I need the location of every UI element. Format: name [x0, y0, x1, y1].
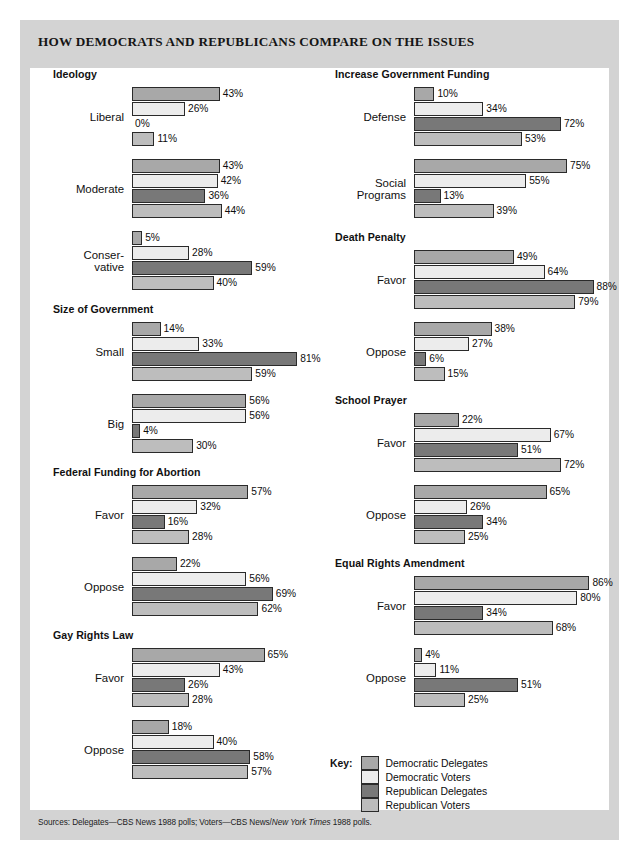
bar-dem-vot [414, 265, 545, 279]
source-publication: New York Times [272, 818, 331, 827]
bar-value-label: 39% [497, 206, 517, 216]
bar-value-label: 86% [592, 578, 612, 588]
issue-section: School PrayerFavor22%67%51%72%Oppose65%2… [330, 394, 620, 544]
bar-dem-del [132, 394, 246, 408]
bar-group-bars: 57%32%16%28% [132, 485, 338, 544]
bar-dem-del [414, 485, 547, 499]
bar-row: 4% [414, 648, 620, 662]
bar-dem-vot [132, 337, 199, 351]
bar-value-label: 11% [439, 665, 459, 675]
legend-swatch [361, 784, 379, 798]
issue-section: Death PenaltyFavor49%64%88%79%Oppose38%2… [330, 231, 620, 381]
bar-group-label: Big [48, 417, 124, 429]
chart-column-right: Increase Government FundingDefense10%34%… [330, 68, 620, 720]
bar-row: 79% [414, 295, 620, 309]
bar-value-label: 57% [251, 767, 271, 777]
bar-group-label: Favor [330, 273, 406, 285]
bar-value-label: 44% [225, 206, 245, 216]
bar-rep-del [414, 117, 561, 131]
bar-group: Big56%56%4%30% [48, 394, 338, 453]
bar-rep-del [132, 352, 297, 366]
bar-value-label: 43% [223, 89, 243, 99]
bar-group: Favor57%32%16%28% [48, 485, 338, 544]
bar-group-label: Oppose [48, 580, 124, 592]
bar-value-label: 64% [548, 267, 568, 277]
bar-dem-del [414, 87, 434, 101]
section-title: Death Penalty [335, 231, 620, 243]
bar-row: 40% [132, 276, 338, 290]
bar-rep-vot [414, 132, 522, 146]
bar-group-label: Liberal [48, 110, 124, 122]
bar-value-label: 56% [249, 411, 269, 421]
bar-rep-del [132, 424, 140, 438]
bar-row: 26% [132, 102, 338, 116]
issue-section: Size of GovernmentSmall14%33%81%59%Big56… [48, 303, 338, 453]
bar-group-label: Oppose [330, 508, 406, 520]
bar-row: 75% [414, 159, 620, 173]
bar-row: 80% [414, 591, 620, 605]
bar-group-bars: 86%80%34%68% [414, 576, 620, 635]
bar-value-label: 56% [249, 396, 269, 406]
bar-value-label: 56% [249, 574, 269, 584]
bar-value-label: 43% [223, 665, 243, 675]
bar-group: Oppose18%40%58%57% [48, 720, 338, 779]
bar-group-bars: 22%56%69%62% [132, 557, 338, 616]
bar-rep-del [414, 678, 518, 692]
bar-value-label: 10% [437, 89, 457, 99]
chart-canvas: IdeologyLiberal43%26%0%11%Moderate43%42%… [30, 68, 609, 810]
issue-section: Increase Government FundingDefense10%34%… [330, 68, 620, 218]
bar-value-label: 51% [521, 445, 541, 455]
legend-row: Republican Delegates [361, 784, 488, 798]
bar-row: 6% [414, 352, 620, 366]
bar-row: 65% [414, 485, 620, 499]
bar-value-label: 30% [196, 441, 216, 451]
bar-row: 56% [132, 409, 338, 423]
bar-dem-del [414, 648, 422, 662]
bar-group-bars: 43%42%36%44% [132, 159, 338, 218]
bar-dem-vot [414, 174, 526, 188]
section-title: Equal Rights Amendment [335, 557, 620, 569]
bar-row: 22% [414, 413, 620, 427]
bar-group: Oppose38%27%6%15% [330, 322, 620, 381]
bar-group: Oppose65%26%34%25% [330, 485, 620, 544]
bar-rep-del [132, 261, 252, 275]
section-title: Size of Government [53, 303, 338, 315]
bar-value-label: 34% [486, 104, 506, 114]
bar-group: Favor86%80%34%68% [330, 576, 620, 635]
bar-group: Social Programs75%55%13%39% [330, 159, 620, 218]
bar-group: Favor49%64%88%79% [330, 250, 620, 309]
bar-group-label: Social Programs [330, 176, 406, 200]
bar-rep-vot [132, 602, 258, 616]
legend-label: Republican Voters [386, 800, 470, 811]
legend-label: Republican Delegates [386, 786, 488, 797]
bar-value-label: 34% [486, 608, 506, 618]
bar-group-bars: 56%56%4%30% [132, 394, 338, 453]
bar-group-label: Defense [330, 110, 406, 122]
bar-group: Oppose4%11%51%25% [330, 648, 620, 707]
bar-value-label: 67% [554, 430, 574, 440]
bar-dem-del [132, 485, 248, 499]
bar-dem-vot [414, 591, 577, 605]
bar-row: 38% [414, 322, 620, 336]
chart-column-left: IdeologyLiberal43%26%0%11%Moderate43%42%… [48, 68, 338, 792]
bar-rep-vot [132, 693, 189, 707]
bar-group: Defense10%34%72%53% [330, 87, 620, 146]
bar-value-label: 34% [486, 517, 506, 527]
bar-value-label: 36% [208, 191, 228, 201]
bar-group-label: Favor [330, 436, 406, 448]
bar-rep-del [132, 678, 185, 692]
bar-rep-del [132, 750, 250, 764]
bar-row: 69% [132, 587, 338, 601]
bar-value-label: 58% [253, 752, 273, 762]
section-title: Increase Government Funding [335, 68, 620, 80]
bar-value-label: 38% [495, 324, 515, 334]
bar-row: 14% [132, 322, 338, 336]
bar-group-label: Favor [48, 671, 124, 683]
bar-rep-del [414, 352, 426, 366]
bar-value-label: 13% [444, 191, 464, 201]
bar-value-label: 81% [300, 354, 320, 364]
bar-row: 57% [132, 765, 338, 779]
bar-row: 28% [132, 530, 338, 544]
bar-value-label: 28% [192, 695, 212, 705]
legend-label: Democratic Voters [386, 772, 471, 783]
